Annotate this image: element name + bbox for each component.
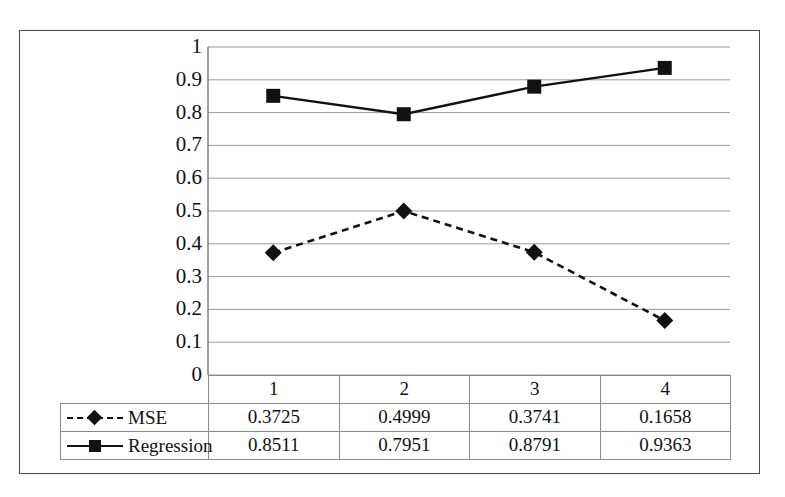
y-tick-label: 0.3 [140,266,202,287]
y-tick-label: 0.6 [140,167,202,188]
y-tick-label: 0.5 [140,200,202,221]
category-header-cell: 3 [470,376,601,404]
square-marker-icon [89,440,101,452]
table-row: MSE 0.3725 0.4999 0.3741 0.1658 [61,403,731,431]
table-cell: 0.4999 [339,403,470,431]
table-cell: 0.8511 [209,431,340,459]
y-tick-label: 1 [140,36,202,57]
category-header-cell: 4 [600,376,731,404]
data-table: 1 2 3 4 MSE 0.3725 0.4999 0.3741 0.1658 [60,375,731,460]
table-header-row: 1 2 3 4 [61,376,731,404]
y-tick-label: 0.4 [140,233,202,254]
y-tick-label: 0.7 [140,134,202,155]
legend-entry-regression: Regression [61,431,209,459]
regression-series-key-icon [67,439,123,453]
category-header-cell: 1 [209,376,340,404]
caption-sliver [60,488,760,497]
table-cell: 0.9363 [600,431,731,459]
y-axis-tick-labels: 1 0.9 0.8 0.7 0.6 0.5 0.4 0.3 0.2 0.1 0 [136,47,202,375]
y-tick-label: 0.8 [140,102,202,123]
table-cell: 0.7951 [339,431,470,459]
category-header-cell: 2 [339,376,470,404]
mse-series-key-icon [67,411,123,425]
legend-label: Regression [128,435,212,457]
table-cell: 0.8791 [470,431,601,459]
legend-label: MSE [128,407,167,429]
table-row: Regression 0.8511 0.7951 0.8791 0.9363 [61,431,731,459]
legend-entry-mse: MSE [61,403,209,431]
table-cell: 0.1658 [600,403,731,431]
table-cell: 0.3725 [209,403,340,431]
y-tick-label: 0.2 [140,298,202,319]
table-corner-cell [61,376,209,404]
diamond-marker-icon [87,410,103,426]
y-tick-label: 0.9 [140,69,202,90]
table-cell: 0.3741 [470,403,601,431]
y-tick-label: 0.1 [140,331,202,352]
